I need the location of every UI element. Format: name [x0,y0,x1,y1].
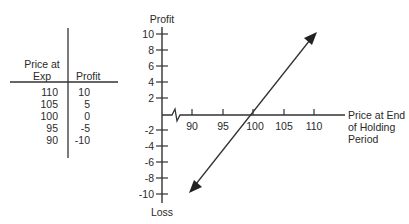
y-tick-label: -10 [130,188,154,200]
y-tick-label: 2 [130,92,154,104]
x-tick-label: 105 [272,120,296,132]
x-tick-label: 90 [180,120,204,132]
table-cell-price: 105 [30,98,58,110]
x-tick-label: 100 [243,120,267,132]
y-tick-label: -6 [130,156,154,168]
y-axis-bottom-label: Loss [142,206,182,218]
table-cell-profit: -10 [66,134,90,146]
y-tick-label: -4 [130,140,154,152]
y-tick-label: -8 [130,172,154,184]
table-cell-profit: 0 [66,110,90,122]
x-tick-label: 110 [302,120,326,132]
y-tick-label: 10 [130,28,154,40]
table-cell-profit: 10 [66,86,90,98]
table-cell-price: 95 [30,122,58,134]
table-cell-price: 110 [30,86,58,98]
arrow-up-right-icon [304,32,317,45]
table-cell-price: 100 [30,110,58,122]
table-header-price-line1: Price at [18,58,66,70]
table-header-profit: Profit [76,70,101,82]
x-axis-label-line3: Period [348,133,378,145]
x-tick-label: 95 [211,120,235,132]
x-axis-label-line1: Price at End [348,109,405,121]
x-axis-label-line2: of Holding [348,121,395,133]
table-cell-profit: -5 [66,122,90,134]
y-tick-label: 6 [130,60,154,72]
table-cell-price: 90 [30,134,58,146]
arrow-down-left-icon [189,180,202,193]
payoff-line [196,40,310,184]
table-header-price-line2: Exp [18,70,66,82]
y-tick-label: -2 [130,124,154,136]
y-tick-label: 4 [130,76,154,88]
y-axis-top-label: Profit [142,13,182,25]
y-tick-label: 8 [130,44,154,56]
table-cell-profit: 5 [66,98,90,110]
